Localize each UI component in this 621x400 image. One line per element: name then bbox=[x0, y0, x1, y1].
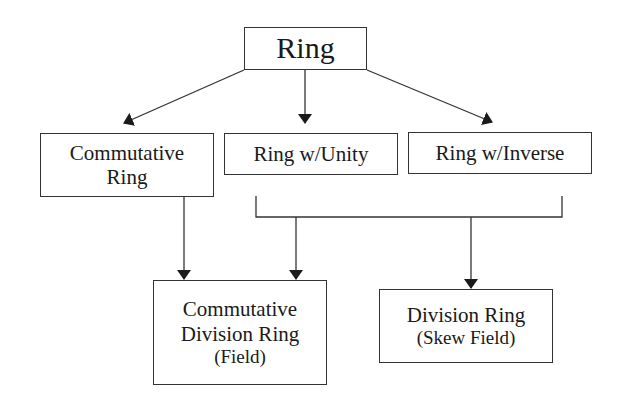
node-label: Commutative bbox=[70, 141, 184, 165]
node-label: Ring w/Inverse bbox=[436, 141, 565, 165]
node-commutative-ring: Commutative Ring bbox=[40, 133, 214, 197]
node-division-ring: Division Ring (Skew Field) bbox=[379, 289, 553, 363]
bracket-unity-inverse bbox=[256, 196, 562, 217]
node-sublabel: (Skew Field) bbox=[417, 327, 516, 349]
edge-ring-to-inverse bbox=[367, 70, 492, 122]
node-label: Ring w/Unity bbox=[254, 142, 369, 166]
edge-ring-to-commutative bbox=[124, 70, 244, 123]
node-label: Division Ring bbox=[181, 322, 299, 346]
node-field: Commutative Division Ring (Field) bbox=[153, 280, 327, 385]
node-label: Division Ring bbox=[407, 303, 525, 327]
node-ring-with-unity: Ring w/Unity bbox=[224, 133, 398, 175]
node-ring: Ring bbox=[244, 27, 367, 70]
node-label: Ring bbox=[107, 165, 148, 189]
node-sublabel: (Field) bbox=[214, 346, 266, 368]
node-ring-with-inverse: Ring w/Inverse bbox=[408, 132, 592, 174]
node-label: Ring bbox=[276, 31, 334, 66]
node-label: Commutative bbox=[183, 297, 297, 321]
